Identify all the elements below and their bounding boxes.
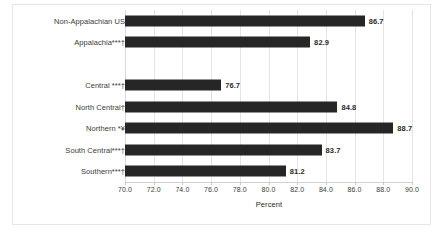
x-tick-label: 90.0	[405, 186, 419, 193]
category-label: North Central†	[76, 102, 125, 111]
category-label: Appalachia***†	[74, 38, 125, 47]
category-label: Central ***†	[85, 81, 125, 90]
tick-mark	[326, 182, 327, 185]
tick-mark	[154, 182, 155, 185]
x-tick-label: 70.0	[118, 186, 132, 193]
category-label: Non-Appalachian US	[54, 16, 125, 25]
tick-mark	[383, 182, 384, 185]
x-tick-label: 82.0	[290, 186, 304, 193]
tick-mark	[355, 182, 356, 185]
tick-mark	[182, 182, 183, 185]
x-tick-label: 74.0	[175, 186, 189, 193]
x-tick-label: 88.0	[376, 186, 390, 193]
category-axis-labels: Non-Appalachian USAppalachia***†Central …	[0, 10, 443, 182]
x-tick-label: 72.0	[147, 186, 161, 193]
x-tick-label: 76.0	[204, 186, 218, 193]
tick-mark	[297, 182, 298, 185]
tick-mark	[240, 182, 241, 185]
x-axis-title: Percent	[125, 200, 413, 209]
x-tick-label: 86.0	[348, 186, 362, 193]
tick-mark	[269, 182, 270, 185]
bar-chart-figure: 86.782.976.784.888.783.781.2 Non-Appalac…	[0, 0, 443, 236]
category-label: South Central***†	[65, 145, 125, 154]
tick-mark	[125, 182, 126, 185]
x-tick-label: 80.0	[261, 186, 275, 193]
category-label: Northern *¥	[86, 124, 125, 133]
category-label: Southern***†	[81, 167, 125, 176]
tick-mark	[412, 182, 413, 185]
tick-mark	[211, 182, 212, 185]
x-tick-label: 78.0	[233, 186, 247, 193]
x-tick-label: 84.0	[319, 186, 333, 193]
